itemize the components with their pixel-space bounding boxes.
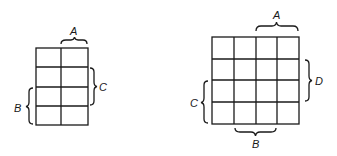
brace-top xyxy=(61,37,87,44)
label-d: D xyxy=(315,75,323,87)
four-variable-kmap xyxy=(201,22,312,136)
label-c: C xyxy=(190,97,198,109)
kmap-diagram: A C B A D C B xyxy=(0,0,337,156)
brace-left xyxy=(201,81,208,123)
brace-bottom xyxy=(235,128,276,136)
label-b: B xyxy=(252,138,259,150)
brace-left xyxy=(26,88,33,124)
brace-right xyxy=(90,68,97,105)
three-variable-kmap xyxy=(26,37,97,125)
label-c: C xyxy=(99,81,107,93)
label-a: A xyxy=(69,25,77,37)
brace-top xyxy=(256,22,298,31)
label-b: B xyxy=(14,102,21,114)
brace-right xyxy=(305,60,312,101)
label-a: A xyxy=(272,9,280,21)
